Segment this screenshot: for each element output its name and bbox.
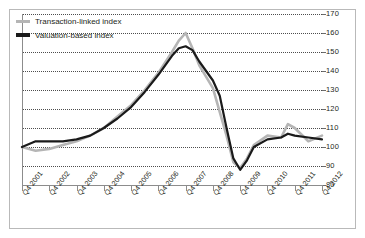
y-tick-label: 110	[326, 124, 339, 132]
series-line-transaction-linked	[22, 33, 322, 168]
y-tick-label: 140	[326, 67, 339, 75]
y-tick-label: 160	[326, 29, 339, 37]
legend-swatch-icon-valuation-based	[16, 33, 30, 37]
legend-swatch-icon-transaction-linked	[16, 20, 30, 23]
legend-item-valuation-based: Valuation-based index	[16, 30, 121, 40]
y-tick-label: 130	[326, 86, 339, 94]
legend-label-valuation-based: Valuation-based index	[35, 31, 114, 40]
legend-item-transaction-linked: Transaction-linked index	[16, 16, 121, 26]
y-tick-label: 120	[326, 105, 339, 113]
series-line-valuation-based	[22, 46, 322, 170]
y-tick-label: 150	[326, 48, 339, 56]
y-tick-label: 90	[326, 162, 335, 170]
y-tick-label: 170	[326, 10, 339, 18]
legend: Transaction-linked index Valuation-based…	[16, 16, 121, 44]
y-tick-label: 100	[326, 143, 339, 151]
chart-container: 8090100110120130140150160170 Q4 2001Q4 2…	[0, 0, 365, 238]
legend-label-transaction-linked: Transaction-linked index	[35, 17, 121, 26]
